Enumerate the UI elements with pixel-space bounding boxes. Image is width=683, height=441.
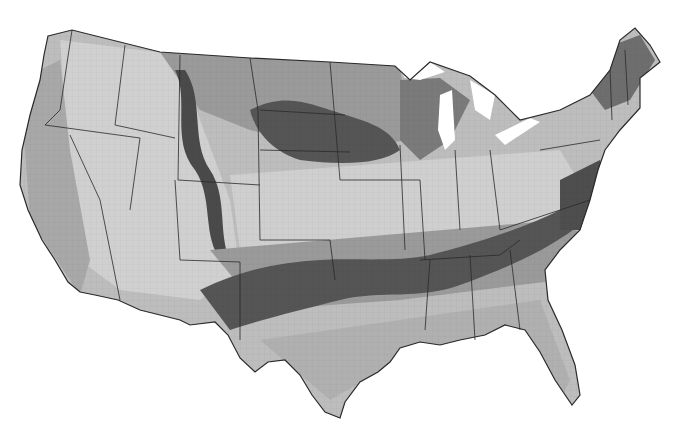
us-zone-map [0, 0, 683, 441]
zone-layer [0, 0, 683, 441]
